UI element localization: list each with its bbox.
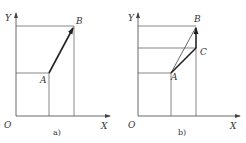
- origin-label: O: [4, 120, 12, 130]
- diagram-canvas: Y O X B A a) Y O X B C A b): [0, 0, 246, 143]
- panel-caption: a): [53, 128, 61, 137]
- panel-b: Y O X B C A b): [128, 13, 240, 137]
- point-a-label: A: [39, 75, 47, 85]
- y-axis-label: Y: [5, 13, 12, 23]
- point-a-label: A: [170, 72, 178, 82]
- y-axis-label: Y: [128, 13, 135, 23]
- panel-a: Y O X B A a): [4, 13, 110, 137]
- x-axis-label: X: [229, 121, 237, 131]
- point-b-label: B: [75, 16, 83, 26]
- point-b-label: B: [193, 14, 201, 24]
- vector-ac: [171, 48, 196, 73]
- vector-ab: [49, 28, 73, 73]
- vector-ab: [171, 27, 196, 73]
- point-c-label: C: [200, 47, 207, 57]
- origin-label: O: [128, 120, 136, 130]
- panel-caption: b): [178, 128, 186, 137]
- x-axis-label: X: [100, 121, 108, 131]
